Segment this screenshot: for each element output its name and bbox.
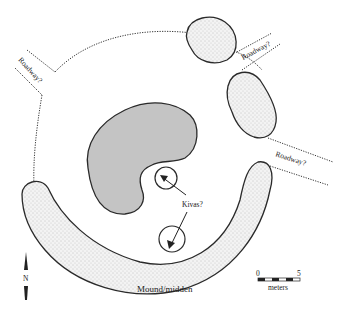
roadway-nw-label: Roadway? <box>17 55 45 85</box>
kiva-arrows <box>160 175 187 249</box>
north-arrow: N <box>23 252 29 300</box>
north-label: N <box>23 274 29 283</box>
kivas-label: Kivas? <box>182 200 203 209</box>
mound-label: Mound/midden <box>137 284 193 294</box>
scale-bar: 0 5 meters <box>256 269 301 292</box>
roadway-ne: Roadway? <box>237 33 280 70</box>
kiva-lower <box>159 226 185 252</box>
enclosure-boundary-west <box>34 95 42 186</box>
enclosure-boundary <box>55 31 205 72</box>
roomblock <box>87 103 197 214</box>
scale-end: 5 <box>297 269 301 278</box>
mound-midden <box>22 162 272 294</box>
small-mound-ne <box>186 17 236 63</box>
roadway-e: Roadway? <box>268 138 333 185</box>
roadway-nw: Roadway? <box>15 50 55 95</box>
mound-east <box>227 72 276 138</box>
scale-start: 0 <box>256 269 260 278</box>
scale-unit: meters <box>268 283 288 292</box>
roadway-e-label: Roadway? <box>274 149 308 168</box>
site-plan: Roadway? Roadway? Roadway? Kivas? Mound/… <box>0 0 350 323</box>
roadway-ne-label: Roadway? <box>240 39 273 62</box>
